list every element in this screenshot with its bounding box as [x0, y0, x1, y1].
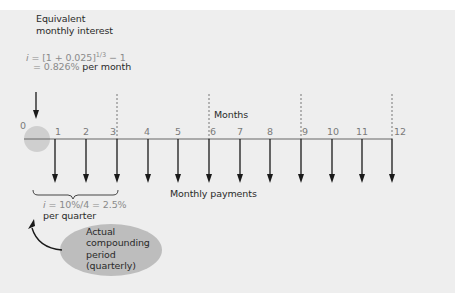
annotation-title-line2: monthly interest	[36, 25, 113, 37]
timeline-graphic	[0, 0, 459, 293]
payment-arrows	[52, 139, 395, 183]
tick-label: 4	[144, 126, 150, 137]
tick-label: 12	[394, 126, 406, 137]
quarter-brace	[33, 190, 118, 199]
quarter-markers	[117, 94, 392, 139]
curved-arrow-icon	[28, 219, 62, 250]
tick-label: 5	[175, 126, 181, 137]
tick-label: 8	[267, 126, 273, 137]
tick-label: 1	[55, 126, 61, 137]
tick-label: 10	[327, 126, 339, 137]
axis-label-months: Months	[214, 109, 248, 121]
tick-label: 9	[302, 126, 308, 137]
bubble-line2: compounding	[86, 237, 150, 249]
tick-label: 3	[110, 126, 116, 137]
annotation-title-line1: Equivalent	[36, 13, 85, 25]
pointer-arrow-icon	[33, 92, 39, 119]
tick-label: 2	[83, 126, 89, 137]
tick-label: 11	[356, 126, 368, 137]
quarterly-rate-unit: per quarter	[43, 210, 96, 222]
tick-label: 6	[210, 126, 216, 137]
payments-label: Monthly payments	[170, 188, 257, 200]
bubble-line4: (quarterly)	[86, 260, 136, 272]
equivalent-rate-result: = 0.826% per month	[33, 61, 131, 73]
tick-label: 0	[20, 120, 26, 131]
tick-label: 7	[237, 126, 243, 137]
